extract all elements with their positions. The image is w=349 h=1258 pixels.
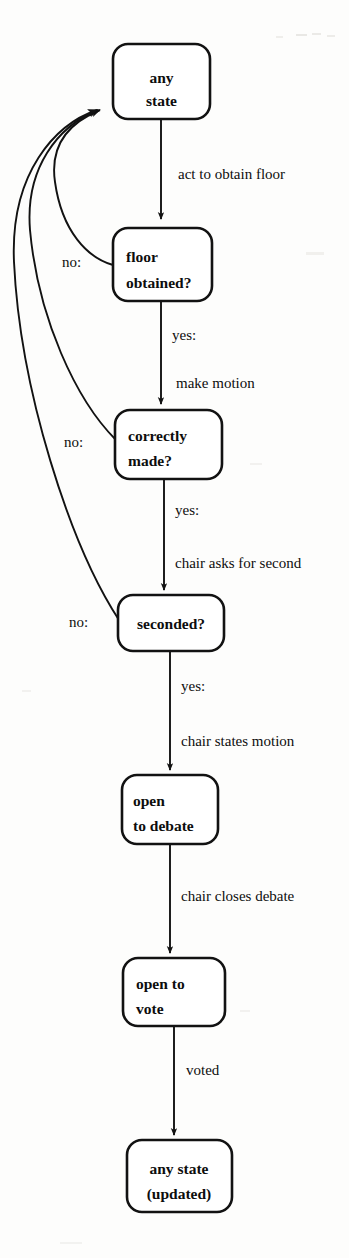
branch-label-no-seconded: no:: [69, 614, 88, 630]
edge-label-chair-states-motion: chair states motion: [181, 733, 295, 749]
flowchart-canvas: any state floor obtained? correctly made…: [0, 0, 349, 1258]
edge-label-chair-closes-debate: chair closes debate: [181, 888, 295, 904]
edges-return-no: [14, 110, 119, 620]
edge-label-yes-made: yes:: [175, 502, 199, 518]
node-correctly-made-line-1: made?: [128, 452, 172, 469]
node-open-to-debate[interactable]: open to debate: [122, 775, 218, 844]
node-open-to-debate-line-0: open: [133, 792, 165, 809]
node-any-state-updated-line-1: (updated): [147, 1185, 212, 1203]
edge-label-make-motion: make motion: [176, 375, 255, 391]
node-correctly-made-line-0: correctly: [128, 427, 187, 444]
flowchart-page: any state floor obtained? correctly made…: [0, 0, 349, 1258]
node-open-to-vote-line-1: vote: [136, 1000, 164, 1017]
return-curve-no-made: [29, 110, 116, 440]
node-floor-obtained-line-1: obtained?: [126, 274, 191, 291]
node-any-state-line-0: any: [149, 69, 173, 86]
node-open-to-debate-line-1: to debate: [133, 817, 194, 834]
branch-label-no-floor: no:: [62, 254, 81, 270]
node-correctly-made[interactable]: correctly made?: [115, 410, 222, 479]
node-open-to-vote-line-0: open to: [136, 975, 185, 992]
node-any-state-line-1: state: [146, 92, 177, 109]
node-any-state[interactable]: any state: [113, 44, 210, 119]
edge-label-yes-floor: yes:: [172, 327, 196, 343]
node-open-to-vote[interactable]: open to vote: [123, 958, 225, 1026]
edge-label-yes-seconded: yes:: [181, 678, 205, 694]
node-seconded-line-0: seconded?: [137, 615, 205, 632]
node-floor-obtained-line-0: floor: [126, 248, 158, 265]
edge-label-act-to-obtain-floor: act to obtain floor: [178, 166, 285, 182]
node-any-state-updated-line-0: any state: [150, 1160, 209, 1177]
node-any-state-updated[interactable]: any state (updated): [127, 1140, 232, 1212]
node-seconded[interactable]: seconded?: [118, 595, 224, 651]
edge-label-chair-asks-for-second: chair asks for second: [175, 555, 302, 571]
edge-label-voted: voted: [186, 1062, 220, 1078]
branch-label-no-made: no:: [64, 434, 83, 450]
branch-labels: no: no: no:: [62, 254, 88, 630]
node-floor-obtained[interactable]: floor obtained?: [113, 228, 212, 301]
